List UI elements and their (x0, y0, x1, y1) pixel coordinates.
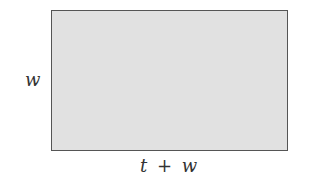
width-label: w (25, 71, 40, 89)
rectangle (51, 10, 288, 151)
length-label: t + w (140, 157, 197, 175)
